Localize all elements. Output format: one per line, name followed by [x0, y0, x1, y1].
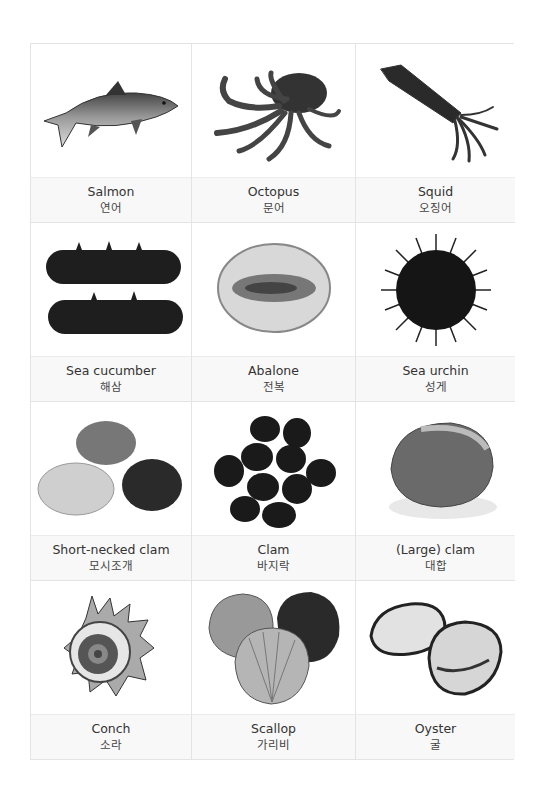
- english-name: Scallop: [251, 720, 296, 737]
- card-sea-cucumber: Sea cucumber 해삼: [31, 223, 192, 402]
- conch-image: [31, 581, 191, 715]
- korean-name: 연어: [100, 200, 122, 217]
- korean-name: 성게: [425, 379, 447, 396]
- card-oyster: Oyster 굴: [356, 581, 515, 759]
- label-clam: Clam 바지락: [192, 536, 355, 580]
- english-name: Sea cucumber: [66, 362, 156, 379]
- label-large-clam: (Large) clam 대합: [356, 536, 515, 580]
- english-name: Oyster: [415, 720, 456, 737]
- english-name: Abalone: [248, 362, 299, 379]
- card-octopus: Octopus 문어: [192, 44, 356, 223]
- label-sea-urchin: Sea urchin 성게: [356, 357, 515, 401]
- label-abalone: Abalone 전복: [192, 357, 355, 401]
- squid-image: [356, 44, 515, 178]
- large-clam-image: [356, 402, 515, 536]
- seafood-vocabulary-grid: Salmon 연어 Octopus 문어 Squid: [30, 43, 514, 760]
- label-short-necked-clam: Short-necked clam 모시조개: [31, 536, 191, 580]
- card-squid: Squid 오징어: [356, 44, 515, 223]
- card-salmon: Salmon 연어: [31, 44, 192, 223]
- english-name: Salmon: [88, 183, 135, 200]
- octopus-image: [192, 44, 355, 178]
- sea-cucumber-image: [31, 223, 191, 357]
- oyster-image: [356, 581, 515, 715]
- korean-name: 전복: [263, 379, 285, 396]
- korean-name: 대합: [425, 558, 447, 575]
- korean-name: 소라: [100, 737, 122, 754]
- korean-name: 해삼: [100, 379, 122, 396]
- korean-name: 굴: [430, 737, 441, 754]
- sea-urchin-image: [356, 223, 515, 357]
- label-oyster: Oyster 굴: [356, 715, 515, 759]
- card-clam: Clam 바지락: [192, 402, 356, 581]
- label-squid: Squid 오징어: [356, 178, 515, 222]
- korean-name: 바지락: [257, 558, 290, 575]
- card-conch: Conch 소라: [31, 581, 192, 759]
- label-conch: Conch 소라: [31, 715, 191, 759]
- short-necked-clam-image: [31, 402, 191, 536]
- english-name: Conch: [91, 720, 130, 737]
- korean-name: 모시조개: [89, 558, 133, 575]
- card-large-clam: (Large) clam 대합: [356, 402, 515, 581]
- card-abalone: Abalone 전복: [192, 223, 356, 402]
- korean-name: 가리비: [257, 737, 290, 754]
- english-name: Clam: [257, 541, 289, 558]
- card-scallop: Scallop 가리비: [192, 581, 356, 759]
- english-name: (Large) clam: [396, 541, 475, 558]
- english-name: Sea urchin: [402, 362, 468, 379]
- english-name: Short-necked clam: [52, 541, 169, 558]
- clam-image: [192, 402, 355, 536]
- abalone-image: [192, 223, 355, 357]
- scallop-image: [192, 581, 355, 715]
- salmon-image: [31, 44, 191, 178]
- label-scallop: Scallop 가리비: [192, 715, 355, 759]
- label-octopus: Octopus 문어: [192, 178, 355, 222]
- english-name: Octopus: [248, 183, 300, 200]
- korean-name: 오징어: [419, 200, 452, 217]
- label-salmon: Salmon 연어: [31, 178, 191, 222]
- english-name: Squid: [418, 183, 453, 200]
- card-short-necked-clam: Short-necked clam 모시조개: [31, 402, 192, 581]
- card-sea-urchin: Sea urchin 성게: [356, 223, 515, 402]
- korean-name: 문어: [263, 200, 285, 217]
- label-sea-cucumber: Sea cucumber 해삼: [31, 357, 191, 401]
